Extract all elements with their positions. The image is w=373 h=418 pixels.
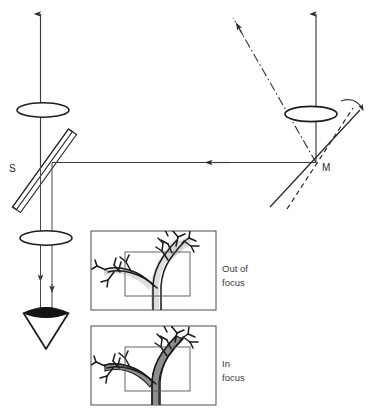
ray-diagonal-incoming — [233, 18, 316, 163]
caption-line-1: Out of — [222, 263, 248, 274]
lens-right — [285, 106, 337, 121]
beam-splitter — [13, 129, 77, 213]
lens-lower-left — [20, 231, 72, 245]
panel-out-of-focus-caption: Out of focus — [222, 263, 248, 288]
mirror — [270, 110, 360, 207]
mirror-label: M — [322, 162, 330, 173]
caption-line-2: focus — [222, 372, 245, 383]
caption-line-1: In — [222, 358, 230, 369]
optical-diagram-figure: S M — [0, 0, 373, 418]
beam-splitter-label: S — [9, 163, 16, 174]
eye — [24, 308, 69, 350]
diagram-canvas: S M — [0, 0, 373, 418]
mirror-alternate — [287, 108, 353, 209]
panel-out-of-focus — [91, 225, 216, 312]
lens-upper-left — [17, 103, 69, 117]
caption-line-2: focus — [222, 277, 245, 288]
panel-in-focus-caption: In focus — [222, 358, 245, 383]
panel-in-focus — [91, 321, 216, 407]
